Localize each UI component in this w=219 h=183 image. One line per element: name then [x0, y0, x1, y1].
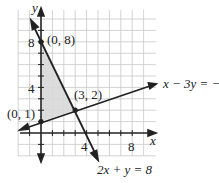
y-axis-label: y	[30, 0, 38, 15]
point-label-0-1: (0, 1)	[7, 106, 35, 121]
point-label-0-8: (0, 8)	[47, 32, 75, 47]
point-0-8	[38, 39, 43, 44]
x-axis-label: x	[149, 133, 156, 148]
graph: y x 8 4 4 8 (0, 8) (3, 2) (0, 1) x − 3y …	[0, 0, 219, 183]
point-0-1	[38, 119, 43, 124]
line-label-x-minus-3y: x − 3y = −3	[162, 76, 219, 91]
tick-label-y8: 8	[28, 35, 35, 50]
line-label-2x-plus-y: 2x + y = 8	[97, 162, 153, 177]
point-3-2	[73, 108, 78, 113]
point-label-3-2: (3, 2)	[74, 87, 102, 102]
tick-label-x4: 4	[81, 139, 88, 154]
tick-label-x8: 8	[128, 139, 135, 154]
tick-label-y4: 4	[28, 81, 35, 96]
